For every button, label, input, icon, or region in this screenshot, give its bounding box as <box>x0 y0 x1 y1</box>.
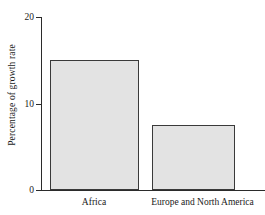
x-axis-line <box>41 190 265 191</box>
y-tick-mark-10 <box>36 104 41 105</box>
bar-europe-and-north-america <box>152 125 235 190</box>
bar-africa <box>50 60 139 190</box>
y-tick-mark-20 <box>36 17 41 18</box>
y-axis-line <box>41 17 42 191</box>
y-tick-label-10: 10 <box>14 99 34 109</box>
x-tick-label-europe-and-north-america: Europe and North America <box>140 196 265 208</box>
y-tick-label-0-wrap: 0 <box>14 185 34 195</box>
bar-chart: Percentage of growth rate 20 10 0 Africa… <box>0 0 265 215</box>
y-tick-label-0: 0 <box>14 185 34 195</box>
y-axis-title: Percentage of growth rate <box>4 0 20 190</box>
y-tick-mark-0 <box>36 190 41 191</box>
x-tick-label-africa: Africa <box>44 196 144 208</box>
y-tick-label-20: 20 <box>14 12 34 22</box>
y-tick-label-20-wrap: 20 <box>14 12 34 22</box>
y-tick-label-10-wrap: 10 <box>14 99 34 109</box>
